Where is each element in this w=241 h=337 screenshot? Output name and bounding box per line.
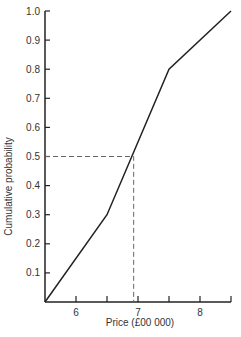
x-tick-label: 8 [197,307,203,318]
y-tick-label: 0.9 [26,35,40,46]
y-tick-label: 0.5 [26,151,40,162]
y-tick-label: 0.1 [26,267,40,278]
y-axis-ticks: 0.10.20.30.40.50.60.70.80.91.0 [26,6,50,279]
y-tick-label: 0.8 [26,64,40,75]
y-tick-label: 0.3 [26,209,40,220]
y-tick-label: 1.0 [26,6,40,17]
x-tick-label: 6 [73,307,79,318]
y-axis-label: Cumulative probability [3,137,14,235]
y-tick-label: 0.4 [26,180,40,191]
y-tick-label: 0.2 [26,238,40,249]
x-axis-label: Price (£00 000) [106,317,174,328]
x-axis-ticks: 678 [73,296,231,318]
y-tick-label: 0.7 [26,93,40,104]
y-tick-label: 0.6 [26,122,40,133]
cumulative-probability-chart: 0.10.20.30.40.50.60.70.80.91.0 678 Price… [0,0,241,337]
median-guide-dashed-line [45,157,134,303]
